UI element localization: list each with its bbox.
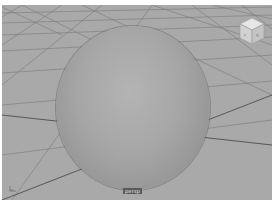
3d-viewport[interactable]: F R <box>2 5 272 200</box>
axis-gizmo-icon <box>8 185 18 193</box>
camera-label: persp <box>123 188 142 194</box>
svg-text:R: R <box>256 33 259 38</box>
sphere-object[interactable] <box>56 26 210 190</box>
viewcube-icon[interactable]: F R <box>238 16 266 46</box>
